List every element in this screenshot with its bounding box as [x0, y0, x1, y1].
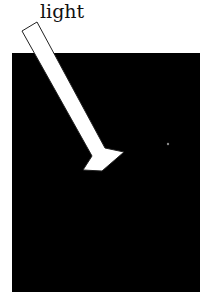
small-dot: [167, 143, 169, 145]
light-arrow-icon: [0, 0, 208, 296]
